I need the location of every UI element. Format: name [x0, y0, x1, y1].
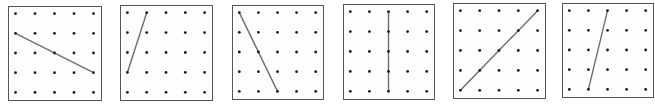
grid-dot: [14, 91, 17, 94]
grid-dot: [92, 12, 95, 15]
grid-dot: [92, 52, 95, 55]
grid-dot: [498, 69, 501, 72]
grid-dot: [34, 32, 37, 35]
grid-dot: [295, 70, 298, 73]
grid-dot: [425, 50, 428, 53]
grid-dot: [587, 88, 590, 91]
dot-grid: [233, 6, 325, 101]
grid-dot: [73, 91, 76, 94]
grid-dot: [587, 9, 590, 12]
grid-dot: [349, 90, 352, 93]
grid-dot: [295, 90, 298, 93]
grid-dot: [349, 50, 352, 53]
grid-dot: [459, 49, 462, 52]
grid-dot: [425, 30, 428, 33]
grid-dot: [587, 49, 590, 52]
grid-dot: [425, 90, 428, 93]
grid-dot: [73, 52, 76, 55]
grid-dot: [295, 51, 298, 54]
grid-dot: [536, 49, 539, 52]
line-segment: [127, 13, 146, 73]
grid-dot: [368, 10, 371, 13]
grid-dot: [126, 51, 129, 54]
geoboard-6: [562, 3, 654, 98]
grid-dot: [406, 90, 409, 93]
grid-dot: [644, 9, 647, 12]
grid-dot: [165, 51, 168, 54]
grid-dot: [203, 11, 206, 14]
grid-dot: [238, 11, 241, 14]
grid-dot: [644, 49, 647, 52]
grid-dot: [126, 31, 129, 34]
grid-dot: [478, 29, 481, 32]
grid-dot: [257, 70, 260, 73]
grid-dot: [14, 71, 17, 74]
grid-dot: [606, 88, 609, 91]
grid-dot: [257, 51, 260, 54]
grid-dot: [92, 32, 95, 35]
grid-dot: [203, 71, 206, 74]
grid-dot: [126, 91, 129, 94]
grid-dot: [459, 69, 462, 72]
grid-dot: [387, 10, 390, 13]
grid-dot: [203, 51, 206, 54]
grid-dot: [425, 70, 428, 73]
grid-dot: [14, 52, 17, 55]
grid-dot: [34, 91, 37, 94]
grid-dot: [625, 49, 628, 52]
grid-dot: [498, 29, 501, 32]
grid-dot: [276, 11, 279, 14]
grid-dot: [387, 90, 390, 93]
grid-dot: [276, 31, 279, 34]
dot-grid: [344, 5, 436, 101]
grid-dot: [92, 91, 95, 94]
grid-dot: [92, 71, 95, 74]
grid-dot: [73, 32, 76, 35]
grid-dot: [568, 88, 571, 91]
dot-grid: [454, 4, 547, 100]
grid-dot: [53, 12, 56, 15]
grid-dot: [53, 52, 56, 55]
geoboard-5: [453, 3, 546, 99]
dot-grid: [563, 4, 655, 99]
grid-dot: [536, 89, 539, 92]
grid-dot: [203, 91, 206, 94]
grid-dot: [53, 91, 56, 94]
grid-dot: [276, 51, 279, 54]
grid-dot: [387, 50, 390, 53]
grid-dot: [498, 89, 501, 92]
grid-dot: [625, 9, 628, 12]
grid-dot: [126, 11, 129, 14]
grid-dot: [406, 10, 409, 13]
grid-dot: [276, 70, 279, 73]
grid-dot: [606, 49, 609, 52]
grid-dot: [368, 30, 371, 33]
geoboard-1: [8, 6, 102, 101]
grid-dot: [184, 71, 187, 74]
grid-dot: [478, 49, 481, 52]
grid-dot: [606, 9, 609, 12]
grid-dot: [606, 68, 609, 71]
grid-dot: [349, 30, 352, 33]
grid-dot: [478, 9, 481, 12]
grid-dot: [314, 70, 317, 73]
grid-dot: [459, 89, 462, 92]
grid-dot: [568, 49, 571, 52]
grid-dot: [145, 31, 148, 34]
grid-dot: [238, 31, 241, 34]
grid-dot: [145, 71, 148, 74]
grid-dot: [238, 70, 241, 73]
grid-dot: [184, 31, 187, 34]
grid-dot: [126, 71, 129, 74]
grid-dot: [587, 29, 590, 32]
grid-dot: [238, 90, 241, 93]
grid-dot: [368, 50, 371, 53]
grid-dot: [459, 9, 462, 12]
grid-dot: [314, 51, 317, 54]
grid-dot: [644, 29, 647, 32]
grid-dot: [349, 70, 352, 73]
dot-grid: [121, 6, 214, 102]
grid-dot: [165, 11, 168, 14]
grid-dot: [606, 29, 609, 32]
grid-dot: [314, 11, 317, 14]
